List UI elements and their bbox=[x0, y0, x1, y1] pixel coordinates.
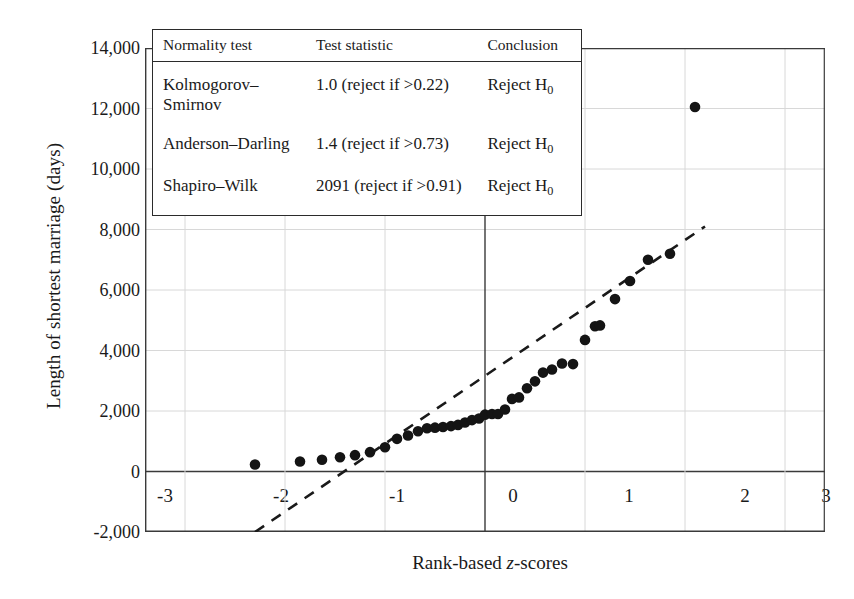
cell-conclusion: Reject H0 bbox=[477, 125, 581, 167]
y-tick-label: 2,000 bbox=[48, 402, 140, 420]
y-tick-label: 14,000 bbox=[48, 39, 140, 57]
data-point bbox=[538, 367, 549, 378]
cell-test-statistic: 2091 (reject if >0.91) bbox=[306, 167, 477, 215]
cell-normality-test: Anderson–Darling bbox=[153, 125, 306, 167]
data-point bbox=[250, 459, 261, 470]
table-row: Shapiro–Wilk2091 (reject if >0.91)Reject… bbox=[153, 167, 581, 215]
y-tick-label: -2,000 bbox=[48, 523, 140, 541]
table-body: Kolmogorov–Smirnov1.0 (reject if >0.22)R… bbox=[153, 62, 581, 215]
y-tick-label: 6,000 bbox=[48, 281, 140, 299]
data-point bbox=[350, 450, 361, 461]
cell-conclusion: Reject H0 bbox=[477, 167, 581, 215]
cell-conclusion: Reject H0 bbox=[477, 62, 581, 126]
table-row: Anderson–Darling1.4 (reject if >0.73)Rej… bbox=[153, 125, 581, 167]
x-axis-label-text: Rank-based z-scores bbox=[412, 552, 568, 573]
data-point bbox=[514, 392, 525, 403]
reference-line bbox=[255, 226, 705, 532]
normal-probability-plot-figure: Length of shortest marriage (days) 14,00… bbox=[0, 0, 854, 599]
y-axis-tick-labels: 14,000 12,000 10,000 8,000 6,000 4,000 2… bbox=[45, 0, 140, 599]
y-tick-label: 0 bbox=[48, 463, 140, 481]
table-header: Normality test Test statistic Conclusion bbox=[153, 30, 581, 62]
y-tick-label: 4,000 bbox=[48, 342, 140, 360]
data-point bbox=[365, 447, 376, 458]
column-header-test-statistic: Test statistic bbox=[306, 30, 477, 62]
data-point bbox=[625, 276, 636, 287]
data-point bbox=[580, 335, 591, 346]
cell-normality-test: Kolmogorov–Smirnov bbox=[153, 62, 306, 126]
y-tick-label: 10,000 bbox=[48, 160, 140, 178]
data-point bbox=[530, 376, 541, 387]
table-header-row: Normality test Test statistic Conclusion bbox=[153, 30, 581, 62]
normality-test-table: Normality test Test statistic Conclusion… bbox=[152, 29, 582, 216]
cell-test-statistic: 1.0 (reject if >0.22) bbox=[306, 62, 477, 126]
x-axis-label: Rank-based z-scores bbox=[145, 552, 835, 574]
data-point bbox=[643, 254, 654, 265]
y-tick-label: 12,000 bbox=[48, 100, 140, 118]
data-point bbox=[595, 320, 606, 331]
data-point bbox=[665, 248, 676, 259]
data-point bbox=[335, 452, 346, 463]
cell-test-statistic: 1.4 (reject if >0.73) bbox=[306, 125, 477, 167]
data-point bbox=[610, 294, 621, 305]
table-row: Kolmogorov–Smirnov1.0 (reject if >0.22)R… bbox=[153, 62, 581, 126]
data-point bbox=[403, 430, 414, 441]
data-point bbox=[568, 359, 579, 370]
data-point bbox=[547, 364, 558, 375]
data-point bbox=[392, 434, 403, 445]
data-point bbox=[380, 442, 391, 453]
cell-normality-test: Shapiro–Wilk bbox=[153, 167, 306, 215]
y-tick-label: 8,000 bbox=[48, 221, 140, 239]
data-point bbox=[522, 383, 533, 394]
normality-test-table-inner: Normality test Test statistic Conclusion… bbox=[153, 30, 581, 215]
column-header-conclusion: Conclusion bbox=[477, 30, 581, 62]
data-point bbox=[317, 454, 328, 465]
data-point bbox=[295, 456, 306, 467]
data-point bbox=[690, 102, 701, 113]
data-point bbox=[413, 426, 424, 437]
data-point bbox=[557, 358, 568, 369]
column-header-normality-test: Normality test bbox=[153, 30, 306, 62]
data-point bbox=[500, 404, 511, 415]
